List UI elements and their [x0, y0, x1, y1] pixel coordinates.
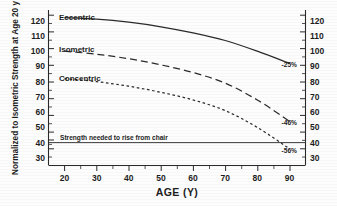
- right-ytick-30: 30: [310, 153, 320, 163]
- right-ytick-40: 40: [310, 138, 320, 148]
- x-tick-labels: 20 30 40 50 60 70 80 90: [60, 173, 295, 183]
- xtick-80: 80: [253, 173, 263, 183]
- right-ytick-90: 90: [310, 61, 320, 71]
- right-ytick-100: 100: [310, 46, 324, 56]
- xtick-40: 40: [124, 173, 134, 183]
- right-ytick-50: 50: [310, 122, 320, 132]
- y-axis-title: Normalized to Isometric Strength at Age …: [11, 1, 20, 175]
- xtick-90: 90: [285, 173, 295, 183]
- left-ytick-30: 30: [36, 153, 46, 163]
- right-y-ticks: [300, 15, 306, 157]
- xtick-50: 50: [156, 173, 166, 183]
- xtick-20: 20: [60, 173, 70, 183]
- right-ytick-70: 70: [310, 92, 320, 102]
- right-y-tick-labels: 120 110 100 90 80 70 60 50 40 30: [310, 16, 324, 163]
- left-ytick-50: 50: [36, 122, 46, 132]
- right-ytick-120: 120: [310, 16, 324, 26]
- xtick-60: 60: [188, 173, 198, 183]
- curve-label-isometric: Isometric: [59, 45, 95, 54]
- left-ytick-60: 60: [36, 107, 46, 117]
- right-ytick-60: 60: [310, 107, 320, 117]
- left-ytick-70: 70: [36, 92, 46, 102]
- x-axis-title: AGE (Y): [156, 186, 198, 198]
- xtick-70: 70: [220, 173, 230, 183]
- figure-container: 120 110 100 90 80 70 60 50 40: [0, 0, 337, 206]
- curve-label-eccentric: Eccentric: [59, 13, 96, 22]
- left-ytick-90: 90: [36, 61, 46, 71]
- curve-eccentric-main: [65, 18, 290, 64]
- left-ytick-100: 100: [31, 46, 45, 56]
- reference-line-label: Strength needed to rise from chair: [60, 134, 168, 142]
- left-y-ticks: [49, 15, 55, 157]
- left-y-tick-labels: 120 110 100 90 80 70 60 50 40: [31, 16, 45, 148]
- x-ticks: [65, 166, 290, 172]
- xtick-30: 30: [92, 173, 102, 183]
- left-ytick-40: 40: [36, 138, 46, 148]
- left-ytick-110: 110: [31, 31, 45, 41]
- strength-vs-age-chart: 120 110 100 90 80 70 60 50 40: [0, 0, 337, 206]
- right-ytick-110: 110: [310, 31, 324, 41]
- annotation-concentric-pct: -56%: [282, 147, 298, 154]
- left-ytick-80: 80: [36, 77, 46, 87]
- annotation-eccentric-pct: -25%: [282, 61, 298, 68]
- reference-line-group: Strength needed to rise from chair: [49, 134, 306, 143]
- curve-label-concentric: Concentric: [59, 74, 101, 83]
- curve-isometric: [65, 51, 290, 121]
- annotation-isometric-pct: -46%: [282, 119, 298, 126]
- right-ytick-80: 80: [310, 77, 320, 87]
- left-ytick-120: 120: [31, 16, 45, 26]
